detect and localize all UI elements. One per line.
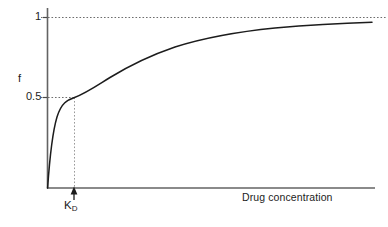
y-tick-label-one: 1 [35, 11, 41, 22]
x-axis-title: Drug concentration [242, 192, 333, 203]
binding-curve [48, 22, 372, 188]
kd-label-base: K [64, 199, 72, 211]
kd-label-subscript: D [72, 204, 78, 213]
binding-curve-figure: 1 0.5 f KD Drug concentration [0, 0, 388, 227]
y-tick-label-half: 0.5 [26, 91, 41, 102]
kd-label: KD [64, 200, 78, 212]
y-axis-symbol-label: f [18, 73, 21, 84]
